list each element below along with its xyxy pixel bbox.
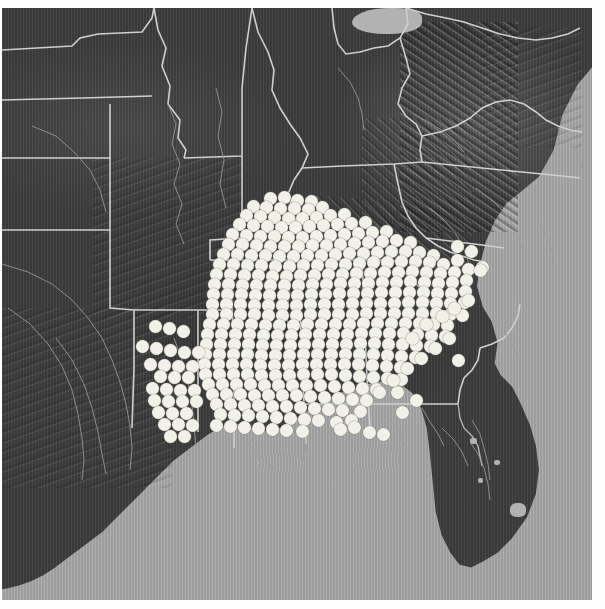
occurrence-dot[interactable]	[182, 371, 195, 384]
occurrence-dot[interactable]	[266, 423, 279, 436]
occurrence-dot[interactable]	[158, 418, 171, 431]
occurrence-dot[interactable]	[210, 419, 223, 432]
occurrence-dot[interactable]	[304, 390, 317, 403]
occurrence-dot[interactable]	[296, 425, 309, 438]
occurrence-dot[interactable]	[280, 400, 293, 413]
occurrence-dot[interactable]	[176, 395, 189, 408]
occurrence-dot[interactable]	[415, 352, 428, 365]
occurrence-dot[interactable]	[373, 386, 386, 399]
occurrence-dot[interactable]	[238, 421, 251, 434]
occurrence-dot[interactable]	[462, 294, 475, 307]
map-page	[0, 0, 605, 609]
occurrence-dot[interactable]	[451, 240, 464, 253]
occurrence-dot[interactable]	[325, 368, 338, 381]
occurrence-dot[interactable]	[339, 369, 352, 382]
occurrence-dot[interactable]	[346, 393, 359, 406]
occurrence-dot[interactable]	[224, 420, 237, 433]
occurrence-dot[interactable]	[148, 394, 161, 407]
occurrence-dot[interactable]	[163, 322, 176, 335]
occurrence-dot[interactable]	[252, 422, 265, 435]
occurrence-dot[interactable]	[380, 360, 393, 373]
occurrence-dot[interactable]	[318, 391, 331, 404]
occurrence-dot[interactable]	[352, 358, 365, 371]
occurrence-dot[interactable]	[363, 426, 376, 439]
occurrence-dot[interactable]	[164, 430, 177, 443]
occurrence-dot[interactable]	[451, 254, 464, 267]
occurrence-dot[interactable]	[377, 428, 390, 441]
occurrence-dot[interactable]	[420, 318, 433, 331]
occurrence-dot[interactable]	[429, 342, 442, 355]
occurrence-dot[interactable]	[160, 383, 173, 396]
occurrence-dot[interactable]	[192, 346, 205, 359]
occurrence-dot-layer[interactable]	[2, 8, 592, 600]
occurrence-dot[interactable]	[396, 406, 409, 419]
occurrence-dot[interactable]	[312, 414, 325, 427]
occurrence-dot[interactable]	[154, 370, 167, 383]
occurrence-dot[interactable]	[443, 332, 456, 345]
occurrence-dot[interactable]	[322, 403, 335, 416]
occurrence-dot[interactable]	[190, 395, 203, 408]
occurrence-dot[interactable]	[342, 381, 355, 394]
occurrence-dot[interactable]	[308, 402, 321, 415]
occurrence-dot[interactable]	[280, 424, 293, 437]
occurrence-dot[interactable]	[290, 389, 303, 402]
occurrence-dot[interactable]	[406, 332, 419, 345]
distribution-map[interactable]	[2, 8, 592, 600]
occurrence-dot[interactable]	[391, 386, 404, 399]
occurrence-dot[interactable]	[152, 406, 165, 419]
occurrence-dot[interactable]	[284, 412, 297, 425]
occurrence-dot[interactable]	[410, 394, 423, 407]
occurrence-dot[interactable]	[448, 302, 461, 315]
occurrence-dot[interactable]	[136, 340, 149, 353]
occurrence-dot[interactable]	[465, 245, 478, 258]
occurrence-dot[interactable]	[172, 418, 185, 431]
occurrence-dot[interactable]	[149, 320, 162, 333]
occurrence-dot[interactable]	[366, 359, 379, 372]
occurrence-dot[interactable]	[270, 411, 283, 424]
occurrence-dot[interactable]	[353, 370, 366, 383]
occurrence-dot[interactable]	[242, 409, 255, 422]
occurrence-dot[interactable]	[328, 380, 341, 393]
occurrence-dot[interactable]	[164, 344, 177, 357]
occurrence-dot[interactable]	[177, 325, 190, 338]
occurrence-dot[interactable]	[348, 421, 361, 434]
occurrence-dot[interactable]	[180, 407, 193, 420]
occurrence-dot[interactable]	[256, 410, 269, 423]
occurrence-dot[interactable]	[294, 401, 307, 414]
occurrence-dot[interactable]	[314, 379, 327, 392]
occurrence-dot[interactable]	[387, 374, 400, 387]
occurrence-dot[interactable]	[298, 413, 311, 426]
occurrence-dot[interactable]	[150, 342, 163, 355]
occurrence-dot[interactable]	[144, 358, 157, 371]
occurrence-dot[interactable]	[334, 423, 347, 436]
occurrence-dot[interactable]	[474, 264, 487, 277]
occurrence-dot[interactable]	[146, 382, 159, 395]
occurrence-dot[interactable]	[356, 382, 369, 395]
occurrence-dot[interactable]	[401, 362, 414, 375]
occurrence-dot[interactable]	[367, 371, 380, 384]
occurrence-dot[interactable]	[186, 419, 199, 432]
occurrence-dot[interactable]	[436, 310, 449, 323]
occurrence-dot[interactable]	[162, 395, 175, 408]
occurrence-dot[interactable]	[178, 346, 191, 359]
occurrence-dot[interactable]	[168, 371, 181, 384]
occurrence-dot[interactable]	[452, 354, 465, 367]
occurrence-dot[interactable]	[332, 392, 345, 405]
occurrence-dot[interactable]	[178, 430, 191, 443]
